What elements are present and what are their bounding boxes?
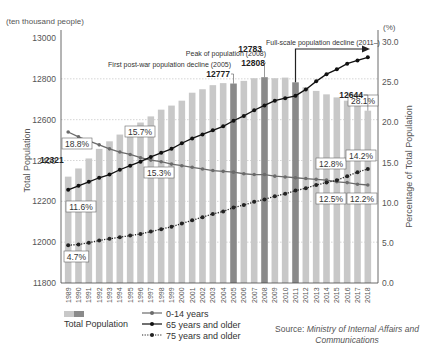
population-bar	[168, 106, 175, 283]
data-point	[159, 227, 163, 231]
data-point	[180, 222, 184, 226]
population-bar	[179, 101, 186, 283]
x-tick-label: 1990	[75, 287, 82, 303]
data-label: 11.6%	[69, 202, 93, 212]
data-label: 12.2%	[350, 194, 375, 204]
x-tick-label: 1998	[158, 287, 165, 303]
data-point	[294, 176, 298, 180]
legend-swatch-dark	[74, 311, 84, 317]
data-point	[366, 55, 370, 59]
right-tick-label: 25.0	[382, 77, 399, 87]
data-point	[252, 173, 256, 177]
data-label: 15.3%	[147, 168, 172, 178]
data-point	[304, 87, 308, 91]
x-tick-label: 2003	[209, 287, 216, 303]
data-point	[304, 177, 308, 181]
data-point	[118, 168, 122, 172]
population-chart: 118001200012200124001260012800130000.05.…	[0, 0, 427, 360]
right-tick-label: 15.0	[382, 158, 399, 168]
annotation-value: 12783	[238, 44, 262, 54]
data-point	[366, 167, 370, 171]
population-bar	[117, 135, 124, 283]
population-bar	[292, 82, 299, 283]
annotation-value: 12777	[206, 69, 230, 79]
x-tick-label: 1989	[65, 287, 72, 303]
data-point	[356, 182, 360, 186]
population-bar	[230, 84, 237, 283]
data-point	[159, 151, 163, 155]
data-point	[263, 103, 267, 107]
annotation-value: 12808	[241, 58, 265, 68]
data-point	[356, 170, 360, 174]
data-point	[170, 162, 174, 166]
right-tick-label: 5.0	[382, 238, 394, 248]
data-point	[159, 160, 163, 164]
data-point	[108, 147, 112, 151]
data-point	[314, 178, 318, 182]
data-point	[108, 173, 112, 177]
right-tick-label: 30.0	[382, 37, 399, 47]
data-point	[242, 114, 246, 118]
annotation-value: 12321	[40, 155, 64, 165]
right-tick-label: 0.0	[382, 278, 394, 288]
legend-label: 65 years and older	[166, 320, 241, 330]
data-point	[283, 96, 287, 100]
data-point	[335, 178, 339, 182]
x-tick-label: 2004	[220, 287, 227, 303]
x-tick-label: 1991	[85, 287, 92, 303]
x-tick-label: 1996	[137, 287, 144, 303]
data-point	[87, 180, 91, 184]
data-point	[128, 234, 132, 238]
x-tick-label: 1999	[168, 287, 175, 303]
right-axis-title: Percentage of Total Population	[404, 105, 414, 227]
x-tick-label: 1994	[116, 287, 123, 303]
data-label: 15.7%	[128, 127, 153, 137]
data-point	[232, 205, 236, 209]
data-point	[335, 67, 339, 71]
data-point	[201, 167, 205, 171]
data-point	[190, 136, 194, 140]
legend-total-population: Total Population	[64, 319, 128, 329]
data-point	[97, 238, 101, 242]
x-tick-label: 2017	[354, 287, 361, 303]
data-point	[128, 164, 132, 168]
population-bar	[127, 128, 134, 283]
x-tick-label: 2000	[178, 287, 185, 303]
data-point	[139, 156, 143, 160]
left-tick-label: 12000	[32, 237, 56, 247]
right-tick-label: 20.0	[382, 117, 399, 127]
population-bar	[261, 77, 268, 283]
left-tick-label: 13000	[32, 33, 56, 43]
data-point	[356, 58, 360, 62]
data-point	[232, 170, 236, 174]
right-unit-label: (%)	[383, 23, 396, 32]
x-tick-label: 2001	[189, 287, 196, 303]
data-point	[77, 242, 81, 246]
population-bar	[137, 123, 144, 283]
right-tick-label: 10.0	[382, 198, 399, 208]
data-point	[170, 225, 174, 229]
data-point	[294, 189, 298, 193]
data-point	[273, 174, 277, 178]
data-point	[263, 197, 267, 201]
data-point	[273, 194, 277, 198]
arrow-icon	[362, 46, 370, 53]
left-unit-label: (ten thousand people)	[6, 17, 84, 26]
annotation-text: Full-scale population decline (2011–)	[266, 39, 380, 47]
data-point	[190, 166, 194, 170]
left-tick-label: 12200	[32, 196, 56, 206]
data-label: 12.5%	[319, 194, 344, 204]
x-tick-label: 1995	[127, 287, 134, 303]
left-axis-title: Total Population	[22, 128, 32, 192]
x-tick-label: 2011	[292, 288, 299, 303]
data-point	[211, 128, 215, 132]
x-tick-label: 2007	[251, 287, 258, 303]
data-point	[314, 183, 318, 187]
legend: Total Population0-14 years65 years and o…	[64, 309, 241, 341]
data-point	[97, 176, 101, 180]
data-point	[345, 181, 349, 185]
x-tick-label: 2015	[333, 287, 340, 303]
population-bar	[334, 97, 341, 283]
data-point	[294, 94, 298, 98]
data-point	[118, 235, 122, 239]
